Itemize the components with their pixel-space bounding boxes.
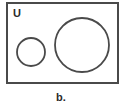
universe-label: U — [13, 7, 21, 19]
small-set-circle — [17, 38, 45, 66]
diagram-caption: b. — [56, 91, 66, 103]
large-set-circle — [55, 18, 109, 72]
universe-rectangle — [7, 3, 118, 83]
venn-diagram: U b. — [0, 0, 121, 104]
venn-diagram-svg: U b. — [0, 0, 121, 104]
